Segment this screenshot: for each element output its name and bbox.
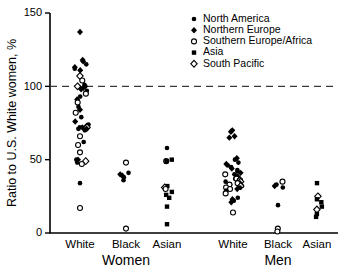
x-axis-category-label: White — [65, 238, 94, 250]
data-point-southern-europe-africa — [223, 191, 228, 196]
y-axis-tick-label: 150 — [24, 6, 42, 18]
data-point-asia — [165, 204, 169, 208]
data-point-southern-europe-africa — [223, 172, 228, 177]
data-point-southern-europe-africa — [76, 143, 81, 148]
data-point-southern-europe-africa — [275, 229, 280, 234]
data-point-north-america — [82, 128, 87, 133]
x-axis-category-label: Black — [264, 238, 292, 250]
data-point-north-america — [281, 185, 286, 190]
data-point-southern-europe-africa — [80, 78, 85, 83]
y-axis-tick-label: 0 — [36, 226, 42, 238]
data-point-southern-europe-africa — [78, 206, 83, 211]
data-point-asia — [170, 190, 174, 194]
data-point-legend-north-america — [192, 17, 197, 22]
legend-label: South Pacific — [203, 57, 264, 69]
data-point-asia — [170, 157, 174, 161]
data-point-southern-europe-africa — [75, 100, 80, 105]
data-point-northern-europe — [232, 133, 238, 139]
data-point-southern-europe-africa — [73, 110, 78, 115]
x-axis-category-label: Asian — [303, 238, 332, 250]
data-point-asia — [315, 181, 319, 185]
data-point-north-america — [76, 127, 81, 132]
data-point-southern-europe-africa — [83, 91, 88, 96]
data-point-asia — [164, 159, 168, 163]
data-point-southern-europe-africa — [78, 150, 83, 155]
data-point-asia — [167, 196, 171, 200]
plot-canvas: 050100150WhiteBlackAsianWhiteBlackAsianW… — [0, 0, 342, 270]
data-point-northern-europe — [226, 134, 232, 140]
data-point-legend-asia — [192, 50, 196, 54]
data-point-asia — [320, 204, 324, 208]
y-axis-title: Ratio to U.S. White women, % — [5, 39, 19, 207]
x-axis-category-label: Black — [112, 238, 140, 250]
data-point-north-america — [126, 171, 131, 176]
data-point-asia — [319, 200, 323, 204]
data-point-southern-europe-africa — [163, 187, 168, 192]
data-point-asia — [315, 197, 319, 201]
data-point-southern-europe-africa — [78, 134, 83, 139]
data-point-southern-europe-africa — [79, 162, 84, 167]
data-point-northern-europe — [72, 118, 78, 124]
legend-label: Northern Europe — [203, 23, 281, 35]
data-point-north-america — [236, 160, 241, 165]
data-point-southern-europe-africa — [231, 210, 236, 215]
data-point-north-america — [165, 146, 170, 151]
data-point-north-america — [72, 66, 77, 71]
data-point-legend-northern-europe — [191, 27, 197, 33]
data-point-north-america — [78, 181, 83, 186]
data-point-legend-southern-europe-africa — [192, 39, 197, 44]
legend-label: Southern Europe/Africa — [203, 34, 312, 46]
x-axis-category-label: White — [218, 238, 247, 250]
legend-label: North America — [203, 12, 270, 24]
data-point-northern-europe — [77, 29, 83, 35]
data-point-north-america — [84, 62, 89, 67]
data-point-north-america — [81, 140, 86, 145]
data-point-asia — [314, 215, 318, 219]
data-point-southern-europe-africa — [124, 160, 129, 165]
x-axis-group-label: Men — [264, 252, 291, 268]
data-point-north-america — [276, 203, 281, 208]
x-axis-category-label: Asian — [153, 238, 182, 250]
data-point-legend-south-pacific — [191, 60, 197, 67]
y-axis-tick-label: 50 — [30, 153, 42, 165]
legend-label: Asia — [203, 45, 224, 57]
data-point-southern-europe-africa — [124, 226, 129, 231]
data-point-north-america — [121, 178, 126, 183]
scatter-plot-figure: 050100150WhiteBlackAsianWhiteBlackAsianW… — [0, 0, 342, 270]
data-point-north-america — [79, 115, 84, 120]
data-point-asia — [165, 222, 169, 226]
data-point-southern-europe-africa — [280, 179, 285, 184]
x-axis-group-label: Women — [102, 252, 150, 268]
data-point-north-america — [236, 196, 241, 201]
y-axis-tick-label: 100 — [24, 80, 42, 92]
